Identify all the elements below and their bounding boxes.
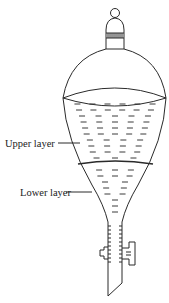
separatory-funnel-diagram: Upper layer Lower layer <box>0 0 169 303</box>
stopper-knob <box>111 9 120 18</box>
stopcock <box>100 242 135 265</box>
liquid-surface <box>63 88 166 106</box>
stopper-collar <box>106 33 124 38</box>
stopcock-left-nub <box>100 247 108 259</box>
lower-layer-label: Lower layer <box>20 187 72 198</box>
lower-layer-liquid <box>96 170 134 212</box>
layer-interface <box>78 161 153 164</box>
stem-graduations <box>108 226 122 262</box>
stopcock-handle <box>122 242 135 265</box>
bulb-outline <box>63 49 166 296</box>
upper-layer-liquid <box>74 104 155 158</box>
upper-layer-label: Upper layer <box>5 138 55 149</box>
